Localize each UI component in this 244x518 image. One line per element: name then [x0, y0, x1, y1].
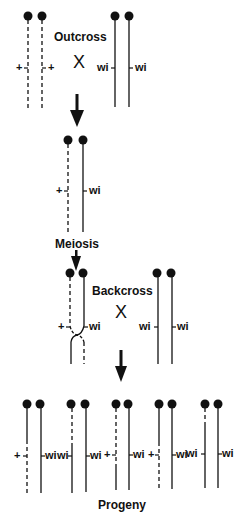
crossover — [71, 326, 84, 342]
centromere-icon — [64, 136, 73, 145]
allele-label: wi — [221, 447, 234, 459]
centromere-icon — [36, 400, 45, 409]
centromere-icon — [125, 12, 134, 21]
allele-label: wi — [138, 320, 151, 332]
allele-label: wi — [134, 61, 147, 73]
centromere-icon — [67, 400, 76, 409]
centromere-icon — [81, 400, 90, 409]
centromere-icon — [214, 400, 223, 409]
progeny-individual-5 — [201, 400, 223, 489]
cross-symbol: X — [73, 52, 85, 72]
centromere-icon — [111, 12, 120, 21]
allele-label: + — [16, 61, 22, 73]
progeny-individual-1 — [23, 400, 46, 495]
allele-label: + — [14, 449, 20, 461]
f1-heterozygote — [64, 136, 88, 233]
down-arrow-icon — [71, 250, 81, 271]
progeny-label: Progeny — [98, 498, 146, 512]
centromere-icon — [79, 136, 88, 145]
allele-label: + — [56, 184, 62, 196]
centromere-icon — [168, 400, 177, 409]
outcross-label: Outcross — [54, 30, 107, 44]
centromere-icon — [24, 12, 33, 21]
down-arrow-icon — [70, 94, 84, 127]
centromere-icon — [167, 269, 176, 278]
allele-label: wi — [88, 320, 101, 332]
allele-label: wi — [185, 447, 198, 459]
progeny-individual-2 — [67, 400, 91, 494]
allele-label: wi — [89, 449, 102, 461]
cross-symbol: X — [115, 302, 127, 322]
backcross-left-parent — [66, 269, 89, 365]
centromere-icon — [155, 400, 164, 409]
centromere-icon — [153, 269, 162, 278]
progeny-individual-3 — [112, 400, 134, 491]
backcross-label: Backcross — [92, 284, 153, 298]
meiosis-label: Meiosis — [55, 237, 99, 251]
centromere-icon — [124, 400, 133, 409]
allele-label: + — [104, 448, 110, 460]
allele-label: wi — [176, 320, 189, 332]
allele-label: wi — [132, 448, 145, 460]
allele-label: wi — [88, 184, 101, 196]
centromere-icon — [79, 269, 88, 278]
outcross-right-parent — [111, 12, 134, 108]
centromere-icon — [112, 400, 121, 409]
centromere-icon — [66, 269, 75, 278]
outcross-left-parent — [24, 12, 47, 109]
centromere-icon — [201, 400, 210, 409]
centromere-icon — [23, 400, 32, 409]
allele-label: + — [48, 61, 54, 73]
allele-label: wi — [44, 449, 57, 461]
allele-label: wi — [96, 61, 109, 73]
allele-label: + — [58, 320, 64, 332]
progeny-individual-4 — [155, 400, 177, 490]
allele-label: wi — [56, 449, 69, 461]
centromere-icon — [38, 12, 47, 21]
allele-label: + — [148, 448, 154, 460]
down-arrow-icon — [115, 350, 127, 382]
backcross-right-parent — [153, 269, 177, 365]
genetic-cross-diagram: + + Outcross X wi wi + wi Meiosis — [0, 0, 244, 518]
